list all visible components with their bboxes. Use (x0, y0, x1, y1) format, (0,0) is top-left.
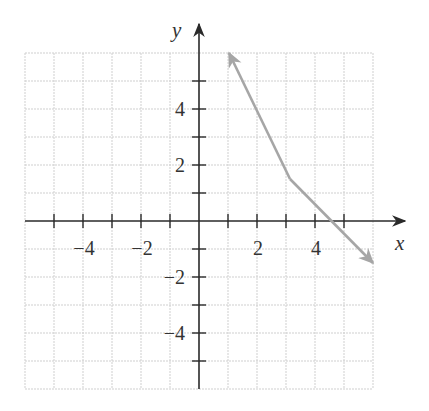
x-tick-label: −2 (131, 237, 152, 259)
x-tick-label: 2 (253, 237, 263, 259)
y-tick-label: 4 (175, 98, 185, 120)
x-axis-label: x (394, 231, 405, 255)
y-tick-label: −2 (164, 266, 185, 288)
y-tick-label: 2 (175, 154, 185, 176)
y-axis-label: y (170, 18, 182, 42)
x-tick-label: 4 (311, 237, 321, 259)
coordinate-plane: −4 −2 2 4 4 2 −2 −4 x y (0, 0, 429, 411)
x-tick-label: −4 (73, 237, 94, 259)
plotted-line (229, 53, 290, 179)
y-tick-label: −4 (164, 322, 185, 344)
